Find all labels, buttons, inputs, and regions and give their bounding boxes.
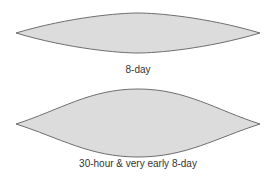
8-day-label: 8-day (0, 64, 276, 75)
30-hour-label: 30-hour & very early 8-day (0, 158, 276, 169)
8-day-profile-shape (0, 0, 276, 70)
30-hour-profile-shape (0, 80, 276, 160)
